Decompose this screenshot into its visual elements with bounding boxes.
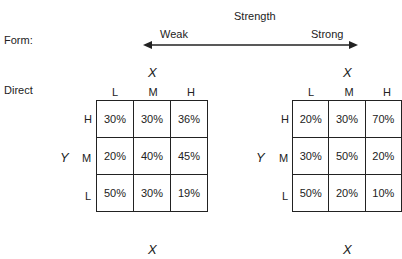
- strength-arrow-icon: [143, 40, 358, 50]
- table-row: 50%20%10%: [293, 175, 402, 212]
- cell: 50%: [293, 175, 329, 212]
- row-header: M: [279, 152, 288, 164]
- col-header: L: [96, 86, 134, 98]
- col-header: L: [292, 86, 330, 98]
- cell: 20%: [97, 138, 134, 175]
- cell: 20%: [293, 101, 329, 138]
- weak-label: Weak: [160, 28, 188, 40]
- row-header: L: [282, 190, 288, 202]
- weak-matrix: 30%30%36% 20%40%45% 50%30%19%: [96, 100, 208, 212]
- x-axis-label-top-right: X: [343, 65, 352, 80]
- cell: 30%: [293, 138, 329, 175]
- cell: 10%: [365, 175, 401, 212]
- table-row: 20%30%70%: [293, 101, 402, 138]
- cell: 30%: [329, 101, 365, 138]
- cell: 19%: [171, 175, 208, 212]
- x-axis-label-bottom-right: X: [343, 242, 352, 257]
- cell: 20%: [329, 175, 365, 212]
- row-header: M: [82, 152, 91, 164]
- cell: 30%: [134, 101, 171, 138]
- x-axis-label-bottom-left: X: [148, 242, 157, 257]
- col-header: H: [368, 86, 402, 98]
- table-row: 20%40%45%: [97, 138, 208, 175]
- x-axis-label-top-left: X: [148, 65, 157, 80]
- table-row: 30%30%36%: [97, 101, 208, 138]
- cell: 50%: [97, 175, 134, 212]
- cell: 40%: [134, 138, 171, 175]
- y-axis-label: Y: [256, 150, 265, 165]
- cell: 30%: [134, 175, 171, 212]
- cell: 30%: [97, 101, 134, 138]
- row-header: H: [84, 113, 92, 125]
- cell: 20%: [365, 138, 401, 175]
- strong-matrix: 20%30%70% 30%50%20% 50%20%10%: [292, 100, 402, 212]
- form-label: Form:: [4, 34, 33, 46]
- cell: 70%: [365, 101, 401, 138]
- cell: 45%: [171, 138, 208, 175]
- row-header: L: [85, 190, 91, 202]
- table-row: 30%50%20%: [293, 138, 402, 175]
- direct-label: Direct: [4, 84, 33, 96]
- strong-label: Strong: [311, 28, 343, 40]
- cell: 50%: [329, 138, 365, 175]
- col-header: M: [134, 86, 172, 98]
- col-header: M: [330, 86, 368, 98]
- table-row: 50%30%19%: [97, 175, 208, 212]
- row-header: H: [281, 113, 289, 125]
- cell: 36%: [171, 101, 208, 138]
- strength-title: Strength: [234, 10, 276, 22]
- col-header: H: [172, 86, 210, 98]
- y-axis-label: Y: [60, 150, 69, 165]
